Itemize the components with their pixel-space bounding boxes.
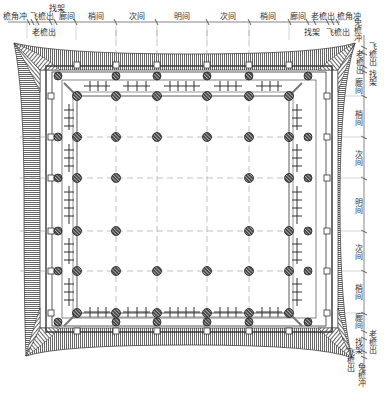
label-right-corner-rush-top: 免檐冲 <box>352 18 360 42</box>
label-right-flying-eave-bottom: 飞檐出 <box>345 348 353 372</box>
label-right-corridor-top: 廊间 <box>353 78 361 94</box>
label-right-end-bay-top: 梢间 <box>353 110 361 126</box>
label-right-secondary-top: 次间 <box>353 150 361 166</box>
label-old-eave-left: 老檐出 <box>32 28 56 37</box>
label-old-eave-right: 老檐出 <box>311 12 335 21</box>
floor-plan-drawing <box>0 0 384 393</box>
label-right-old-eave-bottom: 老檐出 <box>367 330 375 354</box>
label-flying-eave-right: 飞檐出 <box>326 28 350 37</box>
label-right-flying-eave-top: 飞檐出 <box>367 42 375 66</box>
label-right-old-eave-top: 老檐出 <box>354 50 362 74</box>
label-corridor-bay-right: 廊间 <box>290 12 306 21</box>
label-corridor-bay-left: 廊间 <box>59 12 75 21</box>
label-right-zhaojia-bottom: 找架 <box>353 338 361 354</box>
label-zhaojia-right: 找架 <box>304 28 320 37</box>
label-right-corridor-bottom: 廊间 <box>353 313 361 329</box>
label-corner-rush-left: 檐角冲 <box>3 12 27 21</box>
top-dimension-line <box>8 19 340 40</box>
label-right-secondary-bottom: 次间 <box>353 244 361 260</box>
eave-beams <box>46 66 332 332</box>
label-right-corner-rush-bottom: 免檐冲 <box>356 363 364 387</box>
label-secondary-bay-left: 次间 <box>129 12 145 21</box>
label-right-zhaojia-top: 找架 <box>367 70 375 86</box>
label-right-central: 明间 <box>353 198 361 214</box>
label-end-bay-left: 梢间 <box>88 12 104 21</box>
label-right-end-bay-bottom: 梢间 <box>353 284 361 300</box>
label-central-bay: 明间 <box>174 12 190 21</box>
label-secondary-bay-right: 次间 <box>220 12 236 21</box>
label-flying-eave-left: 飞檐出 <box>30 12 54 21</box>
label-end-bay-right: 梢间 <box>260 12 276 21</box>
